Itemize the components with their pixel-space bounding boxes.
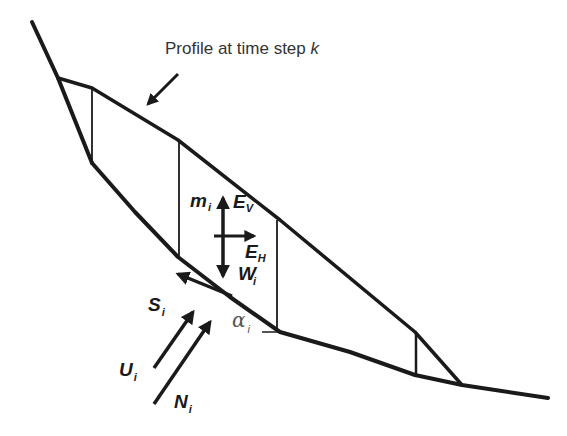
slope-slice-diagram: Profile at time step k mi EV EH Wi Si Ui…: [0, 0, 567, 436]
label-m: mi: [190, 190, 212, 213]
profile-annotation: Profile at time step k: [165, 39, 321, 58]
label-u: Ui: [119, 359, 138, 383]
ground-slope-line: [32, 22, 92, 163]
label-eh: EH: [245, 241, 267, 264]
profile-top-line: [58, 78, 462, 385]
time-step-variable: k: [311, 39, 321, 58]
label-s: Si: [148, 294, 166, 318]
profile-pointer-arrow: [148, 74, 178, 104]
label-n: Ni: [174, 391, 193, 415]
failure-surface: [92, 163, 548, 398]
slice-boundaries: [92, 88, 416, 375]
label-w: Wi: [238, 263, 258, 287]
u-arrow: [154, 312, 193, 368]
label-ev: EV: [233, 191, 255, 214]
label-alpha: αi: [232, 308, 251, 335]
